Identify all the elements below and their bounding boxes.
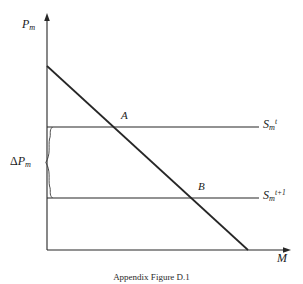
figure-container: Pm M Smt Smt+1 A B ΔPm Appendix Figure D…: [0, 0, 303, 284]
economics-supply-demand-diagram: [0, 0, 303, 284]
x-axis-label: M: [277, 252, 287, 264]
supply-curve-t-label: Smt: [263, 118, 277, 132]
figure-caption: Appendix Figure D.1: [0, 272, 303, 282]
supply-curve-t-plus-1-label: Smt+1: [263, 189, 286, 203]
y-axis-arrowhead: [44, 13, 50, 21]
point-label-a: A: [121, 110, 128, 121]
y-axis-label: Pm: [22, 18, 35, 32]
y-axis-label-subscript: m: [29, 23, 35, 32]
delta-price-base: P: [18, 154, 25, 168]
demand-curve: [47, 66, 248, 250]
point-label-b: B: [198, 181, 205, 192]
supply-curve-t-plus-1-label-superscript: t+1: [275, 188, 286, 197]
delta-price-subscript: m: [25, 160, 31, 169]
supply-curve-t-label-superscript: t: [275, 117, 277, 126]
delta-symbol: Δ: [10, 154, 18, 168]
delta-price-label: ΔPm: [10, 155, 31, 169]
